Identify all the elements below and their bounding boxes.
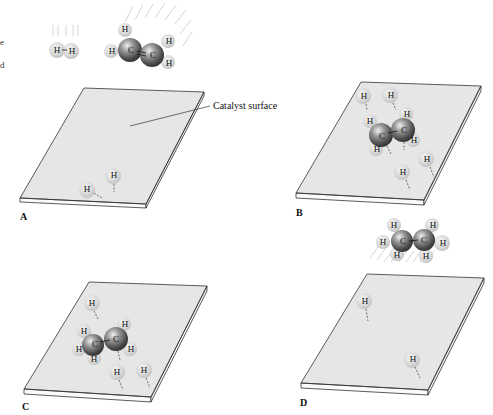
catalyst-surface-label: Catalyst surface — [213, 100, 278, 111]
svg-text:H: H — [141, 365, 148, 375]
hydrogenation-diagram: e d H H H H C C H H — [0, 0, 493, 415]
svg-text:H: H — [430, 220, 437, 230]
svg-text:H: H — [76, 344, 83, 354]
svg-text:H: H — [69, 46, 76, 56]
svg-text:H: H — [114, 367, 121, 377]
svg-text:H: H — [410, 354, 417, 364]
panel-label-d: D — [300, 397, 307, 408]
svg-text:H: H — [391, 220, 398, 230]
ethane-molecule: H H H H H H C C — [370, 218, 450, 263]
svg-text:C: C — [400, 236, 406, 246]
svg-text:H: H — [109, 46, 116, 56]
panel-label-c: C — [22, 401, 29, 412]
svg-text:H: H — [367, 116, 374, 126]
svg-text:H: H — [423, 251, 430, 261]
panel-d: H H D H H H H H H — [300, 218, 484, 408]
svg-text:H: H — [81, 326, 88, 336]
cropped-text-fragment: e — [0, 37, 4, 47]
svg-text:H: H — [362, 296, 369, 306]
svg-text:H: H — [91, 354, 98, 364]
svg-text:C: C — [92, 339, 98, 349]
svg-text:H: H — [122, 319, 129, 329]
svg-text:H: H — [166, 58, 173, 68]
svg-text:H: H — [128, 344, 135, 354]
cropped-text-fragment: d — [0, 60, 5, 70]
svg-text:H: H — [374, 144, 381, 154]
svg-text:H: H — [111, 170, 118, 180]
svg-text:H: H — [166, 36, 173, 46]
svg-text:H: H — [361, 91, 368, 101]
svg-text:H: H — [411, 135, 418, 145]
svg-text:C: C — [401, 125, 407, 135]
svg-text:H: H — [380, 237, 387, 247]
svg-text:H: H — [388, 90, 395, 100]
svg-text:C: C — [150, 50, 156, 60]
h2-molecule: H H — [49, 25, 79, 59]
svg-text:H: H — [89, 298, 96, 308]
panel-label-a: A — [20, 211, 28, 222]
panel-b: H H H H H H H H C C B — [296, 82, 481, 218]
svg-text:H: H — [404, 109, 411, 119]
svg-text:C: C — [421, 235, 427, 245]
svg-text:H: H — [440, 238, 447, 248]
svg-text:C: C — [128, 45, 134, 55]
svg-text:H: H — [54, 45, 61, 55]
svg-text:H: H — [424, 154, 431, 164]
ethylene-molecule: H H C C H H — [104, 3, 192, 69]
svg-text:H: H — [400, 167, 407, 177]
panel-c: H H H H H H H H C C C — [22, 282, 207, 412]
svg-text:H: H — [84, 184, 91, 194]
svg-text:H: H — [122, 24, 129, 34]
svg-text:C: C — [113, 334, 119, 344]
svg-text:H: H — [394, 250, 401, 260]
svg-text:C: C — [379, 131, 385, 141]
panel-a: Catalyst surface H H A — [20, 88, 278, 222]
panel-label-b: B — [296, 207, 303, 218]
